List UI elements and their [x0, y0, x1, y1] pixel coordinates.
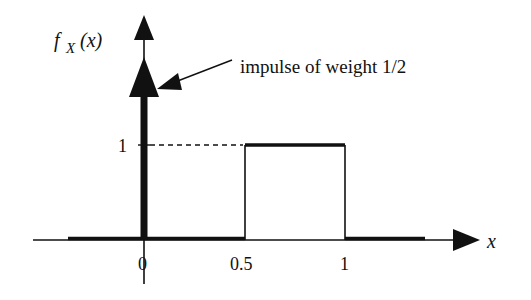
annotation-pointer-line — [175, 60, 232, 82]
y-tick-label-one: 1 — [118, 136, 127, 156]
y-axis-label-sub: X — [65, 40, 76, 56]
y-axis-label-f: f — [54, 29, 62, 52]
impulse-annotation: impulse of weight 1/2 — [240, 56, 406, 77]
x-tick-label-1: 1 — [340, 254, 349, 274]
x-tick-label-0: 0 — [138, 254, 147, 274]
y-axis-arrowhead — [134, 15, 154, 40]
x-tick-label-0-5: 0.5 — [230, 254, 253, 274]
pdf-diagram: f X (x) impulse of weight 1/2 1 0 0.5 1 … — [0, 0, 531, 300]
y-axis-label-arg: (x) — [80, 29, 103, 52]
x-axis-label: x — [486, 230, 496, 252]
impulse-arrowhead — [129, 57, 159, 97]
x-axis-arrowhead — [453, 229, 480, 251]
annotation-pointer-arrowhead — [157, 73, 182, 90]
